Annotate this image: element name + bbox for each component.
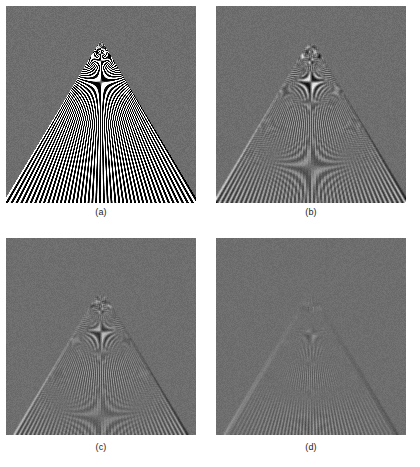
figure-root: (a) (b) (c) (d) — [0, 0, 420, 467]
figure-panel-b — [216, 6, 406, 203]
panel-b-caption: (b) — [216, 206, 406, 218]
panel-c-image — [6, 238, 196, 435]
panel-c-caption: (c) — [6, 441, 196, 453]
figure-panel-d — [216, 238, 406, 435]
figure-panel-c — [6, 238, 196, 435]
panel-d-caption: (d) — [216, 441, 406, 453]
figure-panel-a — [6, 6, 196, 203]
panel-a-caption: (a) — [6, 206, 196, 218]
panel-a-image — [6, 6, 196, 203]
panel-b-image — [216, 6, 406, 203]
panel-d-image — [216, 238, 406, 435]
panel-grid: (a) (b) (c) (d) — [0, 0, 420, 467]
